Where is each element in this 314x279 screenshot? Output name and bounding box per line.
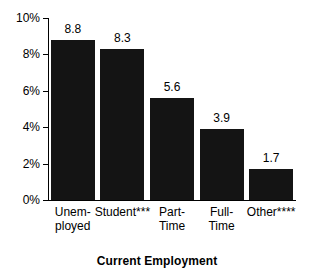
y-axis-tick-label: 0% xyxy=(0,194,40,206)
bar xyxy=(150,98,194,200)
y-axis-line xyxy=(48,18,49,201)
y-axis-tick-label: 10% xyxy=(0,12,40,24)
bar-value-label: 8.8 xyxy=(48,23,98,35)
x-axis-category-label: Other**** xyxy=(239,205,303,219)
bar xyxy=(249,169,293,200)
x-axis-title: Current Employment xyxy=(0,254,314,268)
y-axis-tick-label: 6% xyxy=(0,85,40,97)
y-axis-tick xyxy=(43,54,48,55)
y-axis-tick-label: 2% xyxy=(0,158,40,170)
y-axis-tick xyxy=(43,127,48,128)
bar-value-label: 8.3 xyxy=(97,32,147,44)
y-axis-tick xyxy=(43,164,48,165)
y-axis-tick xyxy=(43,200,48,201)
bar-chart: 0%2%4%6%8%10% 8.88.35.63.91.7 Unem- ploy… xyxy=(0,0,314,279)
bar xyxy=(200,129,244,200)
x-axis-line xyxy=(48,200,296,201)
y-axis-tick-label: 4% xyxy=(0,121,40,133)
bar xyxy=(51,40,95,200)
bar-value-label: 5.6 xyxy=(147,81,197,93)
y-axis-tick xyxy=(43,91,48,92)
bar xyxy=(100,49,144,200)
bar-value-label: 1.7 xyxy=(246,152,296,164)
bar-value-label: 3.9 xyxy=(197,112,247,124)
y-axis-tick-label: 8% xyxy=(0,48,40,60)
y-axis-tick xyxy=(43,18,48,19)
